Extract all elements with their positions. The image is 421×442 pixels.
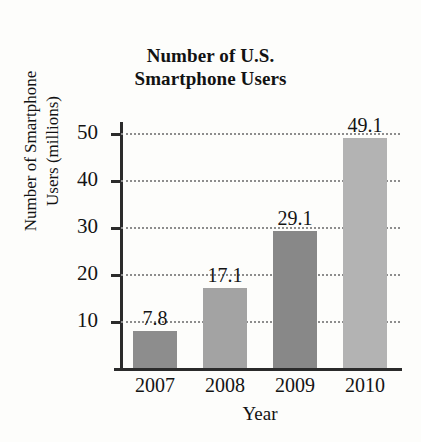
y-tick-label-50: 50 bbox=[77, 122, 98, 143]
y-tick-20: 20 bbox=[111, 274, 121, 277]
bar-value-label-2009: 29.1 bbox=[278, 208, 313, 228]
y-axis-line bbox=[120, 122, 123, 370]
bar-2010[interactable]: 49.1 bbox=[343, 138, 387, 368]
x-axis-line bbox=[114, 368, 402, 371]
bar-value-label-2008: 17.1 bbox=[208, 265, 243, 285]
bar-2007[interactable]: 7.8 bbox=[133, 331, 177, 368]
y-axis-title-line-1: Number of Smartphone bbox=[20, 36, 42, 266]
bar-2009[interactable]: 29.1 bbox=[273, 231, 317, 368]
y-tick-30: 30 bbox=[111, 227, 121, 230]
x-tick-label-2010: 2010 bbox=[345, 374, 385, 396]
y-tick-10: 10 bbox=[111, 321, 121, 324]
y-tick-label-40: 40 bbox=[77, 169, 98, 190]
x-tick-label-2009: 2009 bbox=[275, 374, 315, 396]
x-axis-title: Year bbox=[120, 403, 400, 425]
bar-value-label-2007: 7.8 bbox=[143, 308, 168, 328]
y-axis-title-line-2: Users (millions) bbox=[42, 36, 64, 266]
bar-chart-figure: Number of U.S. Smartphone Users Number o… bbox=[0, 0, 421, 442]
bar-2008[interactable]: 17.1 bbox=[203, 288, 247, 368]
y-tick-40: 40 bbox=[111, 180, 121, 183]
y-axis-title: Number of Smartphone Users (millions) bbox=[20, 36, 66, 266]
bar-value-label-2010: 49.1 bbox=[348, 115, 383, 135]
x-tick-label-2008: 2008 bbox=[205, 374, 245, 396]
y-tick-50: 50 bbox=[111, 133, 121, 136]
y-tick-label-30: 30 bbox=[77, 216, 98, 237]
y-tick-label-10: 10 bbox=[77, 310, 98, 331]
y-tick-label-20: 20 bbox=[77, 263, 98, 284]
x-tick-label-2007: 2007 bbox=[135, 374, 175, 396]
plot-area: 1020304050 7.817.129.149.1 2007200820092… bbox=[120, 124, 400, 368]
